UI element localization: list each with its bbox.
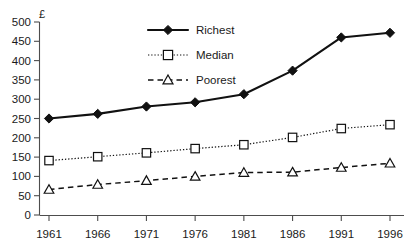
x-tick-label: 1986	[280, 228, 306, 240]
y-tick-label: 150	[12, 151, 31, 163]
y-tick-label: 400	[12, 55, 31, 67]
x-tick-label: 1981	[231, 228, 257, 240]
x-tick-label: 1976	[182, 228, 208, 240]
data-point-marker	[386, 120, 394, 128]
y-axis-unit-label: £	[39, 8, 45, 20]
y-tick-label: 250	[12, 113, 31, 125]
x-tick-label: 1966	[85, 228, 111, 240]
data-point-marker	[191, 144, 199, 152]
data-point-marker	[337, 124, 345, 132]
x-tick-label: 1971	[134, 228, 160, 240]
data-point-marker	[45, 156, 53, 164]
y-tick-label: 300	[12, 93, 31, 105]
data-point-marker	[240, 141, 248, 149]
legend-marker-icon	[163, 50, 172, 59]
y-tick-label: 450	[12, 35, 31, 47]
data-point-marker	[142, 149, 150, 157]
data-point-marker	[288, 133, 296, 141]
chart-background	[0, 0, 414, 251]
line-chart: £ 050100150200250300350400450500 1961196…	[0, 0, 414, 251]
data-point-marker	[94, 153, 102, 161]
y-tick-label: 350	[12, 74, 31, 86]
y-tick-label: 100	[12, 170, 31, 182]
y-tick-label: 50	[18, 190, 31, 202]
legend-label: Poorest	[196, 74, 236, 86]
x-tick-label: 1991	[328, 228, 354, 240]
y-tick-label: 500	[12, 16, 31, 28]
legend-label: Median	[196, 49, 234, 61]
y-tick-label: 200	[12, 132, 31, 144]
chart-container: £ 050100150200250300350400450500 1961196…	[0, 0, 414, 251]
x-tick-label: 1996	[377, 228, 403, 240]
y-tick-label: 0	[25, 209, 31, 221]
legend-label: Richest	[196, 24, 235, 36]
x-tick-label: 1961	[36, 228, 62, 240]
